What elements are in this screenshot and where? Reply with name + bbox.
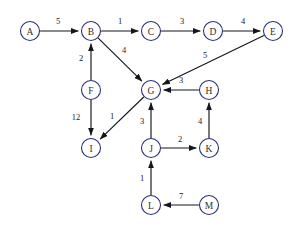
node-label-h: H (206, 86, 213, 96)
node-label-c: C (148, 27, 154, 37)
node-label-k: K (206, 144, 213, 154)
edge-weight-m-l: 7 (179, 191, 183, 201)
edge-b-to-g (98, 38, 142, 81)
graph-diagram: 5134452121332417 ABCDEFGHIJKLM (0, 0, 299, 231)
node-label-e: E (270, 27, 276, 37)
edge-weight-c-d: 3 (180, 16, 184, 26)
node-j[interactable]: J (142, 139, 161, 158)
node-label-a: A (27, 27, 34, 37)
edge-weight-b-g: 4 (122, 45, 127, 55)
node-i[interactable]: I (82, 139, 101, 158)
edge-weight-g-i: 1 (110, 111, 114, 121)
node-label-m: M (205, 201, 214, 211)
edge-weight-d-e: 4 (241, 16, 246, 26)
node-d[interactable]: D (204, 22, 223, 41)
edge-weight-h-g: 3 (179, 75, 183, 85)
node-label-i: I (89, 144, 92, 154)
node-a[interactable]: A (21, 22, 40, 41)
node-label-j: J (149, 144, 153, 154)
node-k[interactable]: K (200, 139, 219, 158)
edge-weight-j-g: 3 (140, 116, 144, 126)
node-m[interactable]: M (200, 196, 219, 215)
node-label-d: D (210, 27, 217, 37)
edge-weight-j-k: 2 (178, 134, 182, 144)
node-label-g: G (148, 86, 155, 96)
node-f[interactable]: F (82, 81, 101, 100)
edge-weight-a-b: 5 (56, 16, 60, 26)
node-g[interactable]: G (142, 81, 161, 100)
edge-weight-k-h: 4 (198, 116, 203, 126)
edge-weight-f-b: 2 (79, 53, 83, 63)
node-h[interactable]: H (200, 81, 219, 100)
edge-e-to-g (162, 35, 263, 84)
node-c[interactable]: C (142, 22, 161, 41)
node-label-b: B (88, 27, 94, 37)
edge-weight-e-g: 5 (203, 50, 207, 60)
node-e[interactable]: E (264, 22, 283, 41)
edge-weight-b-c: 1 (118, 16, 122, 26)
edge-weight-l-j: 1 (140, 173, 144, 183)
node-label-l: L (148, 201, 154, 211)
node-b[interactable]: B (82, 22, 101, 41)
node-label-f: F (88, 86, 93, 96)
edge-weight-f-i: 12 (72, 112, 81, 122)
node-l[interactable]: L (142, 196, 161, 215)
edge-g-to-i (100, 97, 144, 139)
